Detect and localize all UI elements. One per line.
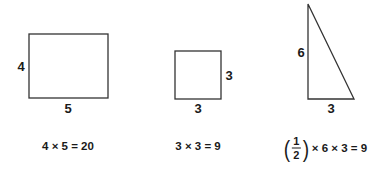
rectangle-width-label: 5 xyxy=(64,102,71,115)
square-area-formula: 3 × 3 = 9 xyxy=(175,141,220,153)
triangle-height-label: 6 xyxy=(297,46,304,59)
triangle-base-label: 3 xyxy=(327,102,334,115)
left-paren: ( xyxy=(284,136,290,160)
triangle-formula-rest: × 6 × 3 = 9 xyxy=(312,142,367,154)
rectangle-area-formula: 4 × 5 = 20 xyxy=(42,141,94,153)
rectangle-shape xyxy=(29,34,108,98)
one-half-fraction: 1 2 xyxy=(292,136,301,161)
square-shape xyxy=(175,51,221,99)
area-diagram: 4 5 3 3 6 3 4 × 5 = 20 3 × 3 = 9 ( 1 2 )… xyxy=(0,0,371,172)
square-bottom-label: 3 xyxy=(194,102,201,115)
right-paren: ) xyxy=(303,136,309,160)
triangle-area-formula: ( 1 2 ) × 6 × 3 = 9 xyxy=(283,136,367,161)
right-triangle-shape xyxy=(308,4,354,99)
fraction-numerator: 1 xyxy=(293,136,299,147)
square-side-label: 3 xyxy=(225,69,232,82)
fraction-denominator: 2 xyxy=(293,150,299,161)
rectangle-height-label: 4 xyxy=(17,60,24,73)
